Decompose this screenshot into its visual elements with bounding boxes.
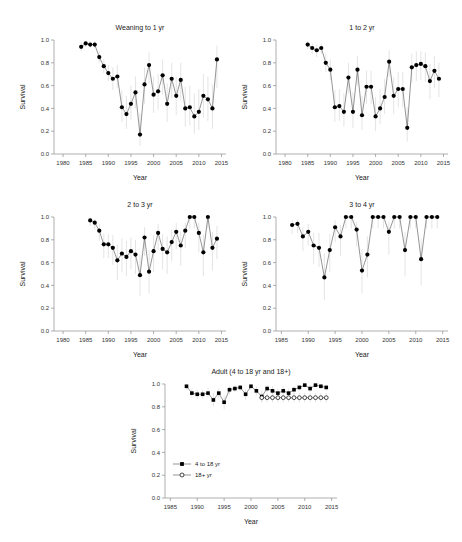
data-point	[281, 389, 285, 393]
data-point	[403, 248, 407, 252]
x-axis-label: Year	[355, 174, 370, 181]
data-point	[201, 94, 205, 98]
data-point	[281, 396, 285, 400]
legend-marker	[180, 462, 184, 466]
data-point	[338, 234, 342, 238]
panel-weaning-to-1yr: Weaning to 1 yr0.00.20.40.60.81.01980198…	[14, 18, 234, 198]
data-point	[151, 249, 155, 253]
x-tick-label: 1985	[79, 160, 93, 166]
panel-3-to-4yr: 3 to 4 yr0.00.20.40.60.81.01985199019952…	[236, 195, 456, 375]
data-point	[360, 268, 364, 272]
data-point	[111, 246, 115, 250]
y-tick-label: 1.0	[263, 37, 272, 43]
y-tick-label: 0.0	[263, 328, 272, 334]
x-tick-label: 2005	[271, 504, 285, 510]
x-tick-label: 2010	[414, 160, 428, 166]
data-point	[290, 223, 294, 227]
x-tick-label: 1985	[275, 337, 289, 343]
y-tick-label: 0.2	[263, 305, 272, 311]
x-tick-label: 1990	[191, 504, 205, 510]
y-tick-label: 0.6	[41, 260, 50, 266]
data-point	[419, 62, 423, 66]
data-point	[170, 240, 174, 244]
error-bars	[292, 217, 437, 300]
data-point	[319, 396, 323, 400]
data-point	[328, 248, 332, 252]
data-point	[373, 114, 377, 118]
x-tick-label: 1995	[346, 160, 360, 166]
x-tick-label: 2000	[244, 504, 258, 510]
data-point	[314, 383, 318, 387]
data-point	[303, 396, 307, 400]
x-tick-label: 1980	[56, 337, 70, 343]
data-point	[174, 230, 178, 234]
data-point	[371, 215, 375, 219]
y-tick-label: 0.2	[152, 472, 161, 478]
data-point	[298, 386, 302, 390]
data-point	[179, 243, 183, 247]
x-tick-label: 2015	[215, 337, 229, 343]
y-tick-label: 0.2	[41, 305, 50, 311]
x-tick-label: 2005	[392, 160, 406, 166]
data-point	[151, 93, 155, 97]
data-point	[210, 106, 214, 110]
x-axis-label: Year	[133, 351, 148, 358]
data-point	[201, 392, 205, 396]
data-point	[410, 65, 414, 69]
data-point	[115, 258, 119, 262]
data-point	[414, 63, 418, 67]
data-point	[210, 246, 214, 250]
data-point	[295, 222, 299, 226]
y-axis-label: Survival	[241, 261, 248, 286]
x-axis-label: Year	[133, 174, 148, 181]
data-point	[147, 270, 151, 274]
data-point	[381, 215, 385, 219]
data-point	[271, 389, 275, 393]
series-line	[308, 45, 439, 128]
data-point	[317, 246, 321, 250]
panel-1-to-2yr: 1 to 2 yr0.00.20.40.60.81.01980198519901…	[236, 18, 456, 198]
x-tick-label: 1995	[124, 337, 138, 343]
data-point	[97, 229, 101, 233]
data-point	[328, 68, 332, 72]
data-point	[308, 396, 312, 400]
y-tick-label: 0.0	[152, 495, 161, 501]
data-point	[401, 87, 405, 91]
data-point	[419, 257, 423, 261]
data-point	[271, 396, 275, 400]
x-tick-label: 2010	[409, 337, 423, 343]
y-tick-label: 1.0	[41, 214, 50, 220]
data-point	[185, 384, 189, 388]
data-point	[183, 106, 187, 110]
data-point	[129, 102, 133, 106]
x-tick-label: 1980	[278, 160, 292, 166]
y-tick-label: 0.4	[263, 283, 272, 289]
data-point	[120, 251, 124, 255]
data-point	[88, 42, 92, 46]
data-point	[428, 79, 432, 83]
data-point	[206, 391, 210, 395]
data-point	[179, 78, 183, 82]
data-point	[111, 77, 115, 81]
x-axis-label: Year	[355, 351, 370, 358]
y-tick-label: 0.8	[41, 237, 50, 243]
data-point	[306, 230, 310, 234]
y-tick-label: 0.4	[41, 283, 50, 289]
panel-title: Weaning to 1 yr	[116, 24, 166, 32]
data-point	[312, 243, 316, 247]
data-point	[364, 85, 368, 89]
x-tick-label: 2000	[369, 160, 383, 166]
data-point	[142, 235, 146, 239]
y-tick-label: 1.0	[263, 214, 272, 220]
chart-canvas-0: Weaning to 1 yr0.00.20.40.60.81.01980198…	[14, 18, 234, 198]
data-point	[437, 77, 441, 81]
legend-label: 4 to 18 yr	[195, 461, 220, 467]
panel-title: 3 to 4 yr	[349, 201, 375, 209]
data-point	[378, 106, 382, 110]
data-point	[206, 215, 210, 219]
x-tick-label: 2010	[192, 160, 206, 166]
x-tick-label: 1985	[79, 337, 93, 343]
data-point	[120, 105, 124, 109]
data-point	[333, 225, 337, 229]
data-point	[212, 398, 216, 402]
